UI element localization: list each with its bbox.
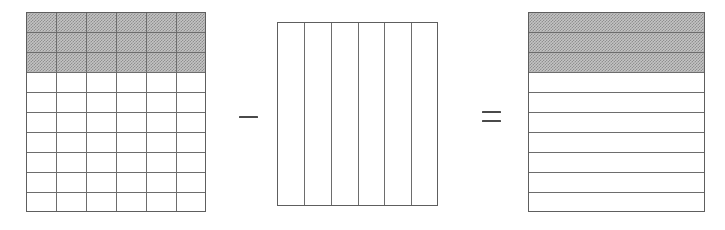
horizontal-rule (528, 172, 705, 173)
grid-cell (528, 12, 705, 32)
grid-cell (56, 192, 86, 212)
vertical-rule (86, 12, 87, 212)
grid-cell (176, 112, 206, 132)
grid-cell (86, 52, 116, 72)
grid-cell (26, 132, 56, 152)
grid-cell (86, 12, 116, 32)
grid-cell (411, 22, 438, 206)
grid-cell (176, 12, 206, 32)
grid-row (528, 52, 705, 72)
grid-cell (26, 52, 56, 72)
grid-cell (116, 172, 146, 192)
grid-cell (277, 22, 304, 206)
grid-cell (528, 132, 705, 152)
grid-cell (56, 72, 86, 92)
grid-cell (26, 112, 56, 132)
grid-cell (86, 152, 116, 172)
grid-row (528, 112, 705, 132)
vertical-rule (384, 22, 385, 206)
grid-cell (146, 152, 176, 172)
equals-operator-icon: = (479, 104, 505, 130)
grid-cell (384, 22, 411, 206)
grid-cell (146, 72, 176, 92)
grid-cell (176, 92, 206, 112)
horizontal-rule (528, 132, 705, 133)
grid-cell (116, 72, 146, 92)
horizontal-rule (528, 92, 705, 93)
grid-panel-horizontal-strips (528, 12, 705, 212)
grid-cell (528, 192, 705, 212)
grid-cell (116, 112, 146, 132)
grid-cell (56, 112, 86, 132)
grid-panel-full-grid (26, 12, 206, 212)
grid-cell (176, 52, 206, 72)
grid-cell (116, 92, 146, 112)
grid-cell (86, 172, 116, 192)
grid-cell (146, 172, 176, 192)
grid-cell (116, 12, 146, 32)
horizontal-rule (528, 112, 705, 113)
grid-cell (176, 152, 206, 172)
operator-symbol: − (236, 104, 237, 105)
vertical-rule (358, 22, 359, 206)
vertical-rule (56, 12, 57, 212)
grid-cell (26, 12, 56, 32)
operator-bar (482, 111, 501, 113)
horizontal-rule (528, 72, 705, 73)
grid-cell (357, 22, 384, 206)
vertical-rule (304, 22, 305, 206)
grid-cell (146, 192, 176, 212)
grid-cell (56, 132, 86, 152)
grid-row (528, 192, 705, 212)
grid-cell (26, 92, 56, 112)
grid-cell (86, 72, 116, 92)
grid-cell (26, 152, 56, 172)
grid-cell (86, 32, 116, 52)
grid-cell (146, 12, 176, 32)
grid-cell (528, 152, 705, 172)
operator-symbol: = (479, 104, 480, 105)
grid-cell (86, 192, 116, 212)
vertical-rule (331, 22, 332, 206)
grid-row (528, 132, 705, 152)
grid-cell (528, 52, 705, 72)
grid-cell (146, 32, 176, 52)
grid-cell (116, 132, 146, 152)
grid-cell (56, 52, 86, 72)
operator-bar (482, 120, 501, 122)
grid-cell (56, 92, 86, 112)
grid-cell (26, 172, 56, 192)
vertical-rule (146, 12, 147, 212)
grid-cell (56, 12, 86, 32)
horizontal-rule (528, 152, 705, 153)
grid-row (528, 92, 705, 112)
vertical-rule (176, 12, 177, 212)
vertical-rule (116, 12, 117, 212)
grid-cell (176, 192, 206, 212)
grid-cell (176, 132, 206, 152)
grid-cell (331, 22, 358, 206)
grid-cell (26, 32, 56, 52)
grid-cell (26, 192, 56, 212)
grid-row (528, 32, 705, 52)
operator-bar (239, 116, 258, 118)
grid-row (528, 72, 705, 92)
grid-cell (116, 152, 146, 172)
grid-cell (86, 132, 116, 152)
grid-cell (56, 172, 86, 192)
grid-row (528, 172, 705, 192)
grid-panel-vertical-strips (277, 22, 438, 206)
grid-cell (146, 132, 176, 152)
grid-cell (304, 22, 331, 206)
minus-operator-icon: − (236, 104, 262, 130)
horizontal-rule (528, 52, 705, 53)
grid-cell (528, 32, 705, 52)
grid-cell (56, 32, 86, 52)
figure-root: Grid decomposition identity −= (0, 0, 725, 230)
horizontal-rule (528, 32, 705, 33)
vertical-rule (411, 22, 412, 206)
grid-cell (528, 92, 705, 112)
grid-cell (116, 32, 146, 52)
grid-cell (146, 52, 176, 72)
grid-cell (146, 92, 176, 112)
